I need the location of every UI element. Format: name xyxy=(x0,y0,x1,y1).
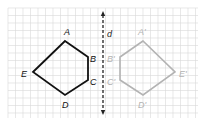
reflection-diagram: d ABCDE A'B'C'D'E' xyxy=(0,0,207,121)
arrow-down-icon xyxy=(101,110,105,115)
vertex-label-a-prime: A' xyxy=(137,27,146,37)
vertex-label-c-prime: C' xyxy=(107,77,115,87)
arrow-up-icon xyxy=(101,11,105,16)
vertex-label-b: B xyxy=(90,54,96,64)
pentagon-abcde: ABCDE xyxy=(21,27,97,110)
vertex-label-e-prime: E' xyxy=(179,69,187,79)
vertex-label-d-prime: D' xyxy=(138,100,146,110)
vertex-label-b-prime: B' xyxy=(107,54,115,64)
diagram-canvas: d ABCDE A'B'C'D'E' xyxy=(0,0,207,121)
vertex-label-d: D xyxy=(62,100,69,110)
vertex-label-a: A xyxy=(63,27,70,37)
pentagon-a-prime-image: A'B'C'D'E' xyxy=(107,27,187,110)
vertex-label-c: C xyxy=(90,77,97,87)
vertex-label-e: E xyxy=(21,69,28,79)
